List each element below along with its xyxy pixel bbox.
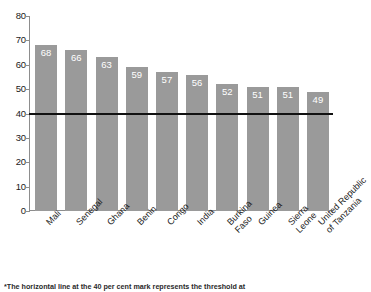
y-tick-label-20: 20 bbox=[0, 157, 26, 167]
y-tick-mark-0 bbox=[25, 211, 30, 212]
y-tick-mark-70 bbox=[25, 40, 30, 41]
bar-rect: 52 bbox=[216, 84, 238, 211]
y-tick-mark-50 bbox=[25, 89, 30, 90]
y-tick-mark-30 bbox=[25, 138, 30, 139]
y-tick-mark-10 bbox=[25, 187, 30, 188]
threshold-line-annotation bbox=[29, 113, 333, 115]
bar-value-label: 63 bbox=[96, 60, 118, 70]
y-tick-label-60: 60 bbox=[0, 60, 26, 70]
bar-rect: 49 bbox=[307, 92, 329, 211]
bar-rect: 57 bbox=[156, 72, 178, 211]
plot-area: 80706050403020100 68666359575652515149 bbox=[0, 14, 337, 220]
y-tick-mark-20 bbox=[25, 162, 30, 163]
bar-rect: 68 bbox=[35, 45, 57, 211]
bar-value-label: 66 bbox=[65, 53, 87, 63]
y-tick-label-10: 10 bbox=[0, 182, 26, 192]
y-tick-mark-80 bbox=[25, 16, 30, 17]
y-tick-label-40: 40 bbox=[0, 109, 26, 119]
y-tick-mark-60 bbox=[25, 65, 30, 66]
bar-value-label: 52 bbox=[216, 87, 238, 97]
bar-value-label: 59 bbox=[126, 70, 148, 80]
bar-value-label: 56 bbox=[186, 78, 208, 88]
bar-rect: 51 bbox=[277, 87, 299, 211]
bar-rect: 59 bbox=[126, 67, 148, 211]
y-tick-label-0: 0 bbox=[0, 206, 26, 216]
y-tick-label-80: 80 bbox=[0, 11, 26, 21]
bar-value-label: 57 bbox=[156, 75, 178, 85]
bar-rect: 63 bbox=[96, 57, 118, 211]
bar-value-label: 68 bbox=[35, 48, 57, 58]
top-clipped-text bbox=[60, 0, 240, 4]
y-axis-tick-labels: 80706050403020100 bbox=[0, 14, 26, 220]
y-tick-label-30: 30 bbox=[0, 133, 26, 143]
y-tick-label-50: 50 bbox=[0, 84, 26, 94]
chart-footnote: *The horizontal line at the 40 per cent … bbox=[4, 283, 334, 291]
bar-value-label: 51 bbox=[277, 90, 299, 100]
y-tick-label-70: 70 bbox=[0, 35, 26, 45]
bar-value-label: 49 bbox=[307, 95, 329, 105]
bar-rect: 56 bbox=[186, 75, 208, 212]
x-axis-category-labels: MaliSenegalGhanaBeninCongoIndiaBurkinaFa… bbox=[0, 220, 337, 278]
bar-rect: 51 bbox=[247, 87, 269, 211]
bar-value-label: 51 bbox=[247, 90, 269, 100]
bar-rect: 66 bbox=[65, 50, 87, 211]
